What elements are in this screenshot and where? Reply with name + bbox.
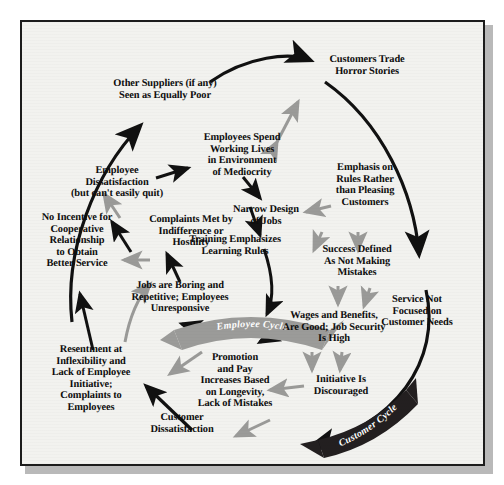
node-initiative-discouraged: Initiative Is Discouraged [295, 374, 387, 397]
node-customer-dissatisfaction: Customer Dissatisfaction [126, 412, 238, 435]
node-success-defined: Success Defined As Not Making Mistakes [302, 244, 412, 279]
node-promotion-and-pay: Promotion and Pay Increases Based on Lon… [177, 352, 293, 410]
arrow-promotion-to-custdissat-gray [236, 420, 270, 436]
node-jobs-are-boring: Jobs are Boring and Repetitive; Employee… [110, 280, 250, 315]
node-customers-trade: Customers Trade Horror Stories [302, 54, 432, 77]
arrow-resentment-to-noincentive [80, 294, 93, 350]
arrow-wages-to-initiative2-gray [340, 352, 342, 370]
node-resentment: Resentment at Inflexibility and Lack of … [30, 344, 152, 414]
node-wages-and-benefits: Wages and Benefits, Are Good; Job Securi… [260, 310, 408, 345]
diagram-frame: Employee Cycle Customer Cycle Other Supp… [20, 20, 485, 466]
arrow-jobsboring-to-complaints [167, 254, 180, 282]
node-employee-dissatisfaction: Employee Dissatisfaction (but can't easi… [50, 165, 184, 200]
diagram-canvas: Employee Cycle Customer Cycle Other Supp… [0, 0, 504, 485]
node-emphasis-on-rules: Emphasis on Rules Rather than Pleasing C… [319, 162, 411, 208]
node-employees-spend: Employees Spend Working Lives in Environ… [187, 132, 297, 178]
arrow-training-to-wages [264, 249, 272, 314]
node-other-suppliers: Other Suppliers (if any) Seen as Equally… [80, 78, 250, 101]
node-training-emphasizes: Training Emphasizes Learning Rules [170, 234, 300, 257]
node-no-incentive: No Incentive for Cooperative Relationshi… [27, 212, 127, 270]
arrow-empspend-to-narrow [243, 177, 260, 198]
